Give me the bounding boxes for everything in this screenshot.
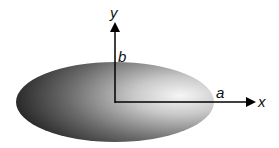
ellipse-diagram: y x b a xyxy=(0,0,279,148)
x-axis-label: x xyxy=(257,93,266,110)
semi-major-label: a xyxy=(216,84,224,101)
y-axis-label: y xyxy=(109,4,119,21)
semi-minor-label: b xyxy=(118,48,126,65)
